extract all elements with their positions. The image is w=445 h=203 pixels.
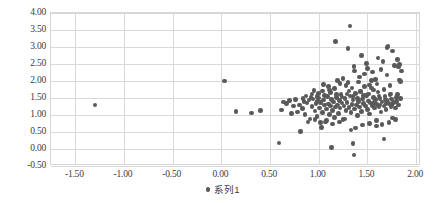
- data-point: [399, 69, 404, 74]
- data-point: [398, 79, 403, 84]
- data-point: [291, 104, 296, 109]
- data-point: [346, 46, 351, 51]
- y-tick-label: 1.00: [0, 109, 46, 119]
- y-tick-label: 3.00: [0, 41, 46, 51]
- data-point: [234, 109, 239, 114]
- data-point: [343, 117, 348, 122]
- data-point: [333, 39, 338, 44]
- data-point: [289, 111, 294, 116]
- data-point: [398, 96, 403, 101]
- data-point: [352, 64, 357, 69]
- data-point: [389, 103, 394, 108]
- data-point: [349, 110, 354, 115]
- data-point: [376, 56, 381, 61]
- data-point: [366, 92, 371, 97]
- y-axis-labels: 4.003.503.002.502.001.501.000.500.00-0.5…: [0, 12, 46, 165]
- data-point: [332, 115, 337, 120]
- data-point: [362, 84, 367, 89]
- y-tick-label: 0.00: [0, 143, 46, 153]
- data-point: [319, 125, 324, 130]
- plot-area: [50, 12, 420, 165]
- data-point: [93, 103, 98, 108]
- y-tick-label: 4.00: [0, 7, 46, 17]
- data-point: [385, 45, 390, 50]
- data-point: [379, 110, 384, 115]
- chart-legend: 系列1: [0, 184, 445, 195]
- data-point: [249, 111, 254, 116]
- scatter-chart: 4.003.503.002.502.001.501.000.500.00-0.5…: [0, 0, 445, 203]
- data-point: [277, 141, 282, 146]
- y-tick-label: 2.50: [0, 58, 46, 68]
- data-point: [384, 107, 389, 112]
- data-point: [336, 111, 341, 116]
- data-point: [344, 83, 349, 88]
- gridline-horizontal: [51, 166, 419, 167]
- data-point: [371, 88, 376, 93]
- data-point: [367, 83, 372, 88]
- data-point: [337, 120, 342, 125]
- data-point: [373, 77, 378, 82]
- data-point: [355, 96, 360, 101]
- data-point: [370, 70, 375, 75]
- data-point: [374, 118, 379, 123]
- data-point: [355, 113, 360, 118]
- data-point: [367, 121, 372, 126]
- data-point: [293, 97, 298, 102]
- y-tick-label: 3.50: [0, 24, 46, 34]
- data-point: [357, 75, 362, 80]
- data-point: [295, 110, 300, 115]
- data-point: [374, 124, 379, 129]
- data-point: [258, 108, 263, 113]
- y-tick-label: 0.50: [0, 126, 46, 136]
- data-point: [310, 92, 315, 97]
- data-point: [341, 76, 346, 81]
- data-point: [330, 122, 335, 127]
- data-point: [365, 66, 370, 71]
- data-point: [382, 137, 387, 142]
- data-point: [369, 78, 374, 83]
- data-point: [287, 98, 292, 103]
- data-point: [298, 129, 303, 134]
- data-point: [384, 101, 389, 106]
- data-point: [393, 117, 398, 122]
- data-point: [313, 117, 318, 122]
- data-point: [332, 86, 337, 91]
- data-point: [397, 62, 402, 67]
- data-point: [334, 92, 339, 97]
- data-point: [389, 92, 394, 97]
- data-point: [353, 126, 358, 131]
- data-point: [321, 82, 326, 87]
- data-point: [364, 61, 369, 66]
- data-point: [359, 109, 364, 114]
- data-point: [318, 120, 323, 125]
- data-point: [356, 80, 361, 85]
- legend-marker-icon: [206, 187, 211, 192]
- data-point: [385, 73, 390, 78]
- legend-series-label: 系列1: [214, 184, 239, 195]
- data-point: [322, 93, 327, 98]
- data-point: [351, 141, 356, 146]
- data-point: [313, 109, 318, 114]
- data-point: [372, 100, 377, 105]
- data-point: [315, 94, 320, 99]
- data-point: [352, 153, 357, 158]
- data-point: [303, 112, 308, 117]
- data-point: [380, 122, 385, 127]
- x-tick-label: 2.00: [385, 168, 445, 180]
- y-tick-label: 2.00: [0, 75, 46, 85]
- data-point: [375, 82, 380, 87]
- data-point: [362, 72, 367, 77]
- data-point: [381, 59, 386, 64]
- data-point: [359, 53, 364, 58]
- data-point: [279, 108, 284, 113]
- data-point: [348, 24, 353, 29]
- data-point: [306, 120, 311, 125]
- data-point: [222, 79, 227, 84]
- data-point: [360, 123, 365, 128]
- data-point: [390, 49, 395, 54]
- data-point: [352, 69, 357, 74]
- data-point: [367, 112, 372, 117]
- data-point: [324, 118, 329, 123]
- data-point: [349, 128, 354, 133]
- data-points-layer: [51, 13, 419, 164]
